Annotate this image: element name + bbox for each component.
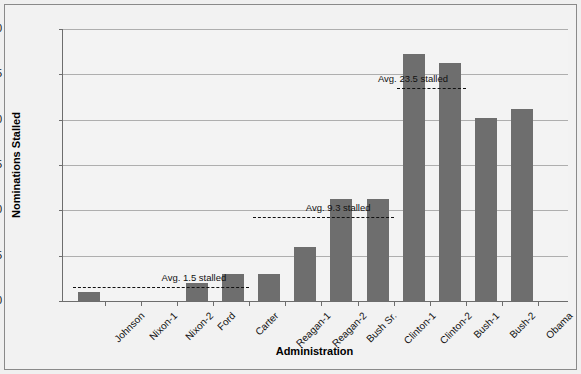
x-axis-tick-mark: [285, 301, 286, 306]
bar: [258, 274, 280, 301]
x-axis-tick-label: Nixon-1: [147, 310, 179, 342]
x-axis-tick-mark: [213, 301, 214, 306]
x-axis-tick-mark: [430, 301, 431, 306]
x-axis-tick-mark: [394, 301, 395, 306]
x-axis-tick-label: Clinton-1: [401, 310, 437, 346]
x-axis-tick-label: Reagan-1: [294, 310, 333, 349]
x-axis-tick-label: Bush-1: [471, 310, 501, 340]
bar: [439, 63, 461, 301]
y-axis-tick-mark: [59, 210, 63, 211]
y-axis-tick-mark: [59, 120, 63, 121]
bar: [511, 109, 533, 301]
bar: [78, 292, 100, 301]
average-line: [253, 217, 394, 218]
bar: [403, 54, 425, 301]
y-axis-tick-label: 30: [0, 23, 2, 34]
gridline: [63, 74, 568, 75]
y-axis-tick-label: 0: [0, 295, 2, 306]
plot-area: 051015202530 JohnsonNixon-1Nixon-2FordCa…: [62, 29, 568, 302]
y-axis-tick-label: 10: [0, 204, 2, 215]
bar: [475, 118, 497, 301]
x-axis-tick-mark: [502, 301, 503, 306]
x-axis-tick-label: Carter: [253, 310, 280, 337]
y-axis-tick-label: 25: [0, 68, 2, 79]
y-axis-tick-label: 15: [0, 159, 2, 170]
x-axis-tick-label: Obama: [543, 310, 574, 341]
x-axis-tick-mark: [141, 301, 142, 306]
average-line-label: Avg. 23.5 stalled: [378, 73, 448, 84]
bar: [330, 199, 352, 301]
x-axis-title: Administration: [62, 345, 567, 357]
x-axis-tick-mark: [466, 301, 467, 306]
y-axis-title: Nominations Stalled: [10, 112, 22, 218]
bar: [186, 283, 208, 301]
x-axis-tick-mark: [538, 301, 539, 306]
gridline: [63, 29, 568, 30]
x-axis-tick-label: Johnson: [112, 310, 147, 345]
x-axis-tick-mark: [321, 301, 322, 306]
average-line-label: Avg. 9.3 stalled: [306, 202, 371, 213]
x-axis-tick-mark: [177, 301, 178, 306]
x-axis-tick-mark: [358, 301, 359, 306]
y-axis-tick-mark: [59, 74, 63, 75]
y-axis-tick-mark: [59, 165, 63, 166]
y-axis-tick-label: 5: [0, 250, 2, 261]
bar: [294, 247, 316, 301]
y-axis-tick-label: 20: [0, 114, 2, 125]
x-axis-tick-label: Bush Sr.: [365, 310, 400, 345]
y-axis-tick-mark: [59, 301, 63, 302]
x-axis-tick-label: Clinton-2: [437, 310, 473, 346]
x-axis-tick-label: Bush-2: [507, 310, 537, 340]
x-axis-tick-label: Reagan-2: [330, 310, 369, 349]
x-axis-tick-label: Nixon-2: [183, 310, 215, 342]
average-line-label: Avg. 1.5 stalled: [161, 272, 226, 283]
x-axis-tick-label: Ford: [215, 310, 237, 332]
chart-figure: 051015202530 JohnsonNixon-1Nixon-2FordCa…: [0, 0, 581, 374]
average-line: [73, 287, 250, 288]
bar: [367, 199, 389, 301]
chart-frame: 051015202530 JohnsonNixon-1Nixon-2FordCa…: [4, 4, 577, 370]
y-axis-tick-mark: [59, 256, 63, 257]
x-axis-tick-mark: [105, 301, 106, 306]
average-line: [397, 88, 466, 89]
y-axis-tick-mark: [59, 29, 63, 30]
x-axis-tick-mark: [249, 301, 250, 306]
